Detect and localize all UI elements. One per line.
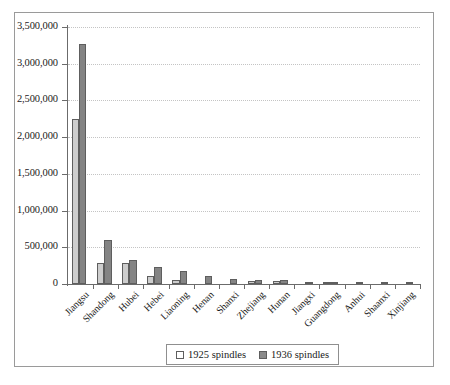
legend-entry-1925: 1925 spindles	[176, 349, 246, 360]
bar-group	[373, 27, 388, 284]
y-axis-tick-label: 3,500,000	[14, 20, 58, 31]
y-axis-line	[67, 25, 68, 286]
gridline	[68, 137, 420, 138]
bar-group	[273, 27, 288, 284]
y-axis-tick-label: 500,000	[14, 240, 58, 251]
x-axis-tick-mark	[370, 284, 371, 289]
bar-hebei-1925	[147, 276, 154, 284]
bar-group	[72, 27, 87, 284]
x-axis-tick-mark	[244, 284, 245, 289]
x-axis-tick-mark	[269, 284, 270, 289]
y-axis-tick-label: 1,500,000	[14, 167, 58, 178]
bar-group	[197, 27, 212, 284]
x-axis-tick-mark	[345, 284, 346, 289]
bar-group	[97, 27, 112, 284]
bar-group	[399, 27, 414, 284]
legend-label-1936: 1936 spindles	[271, 349, 329, 360]
legend-label-1925: 1925 spindles	[188, 349, 246, 360]
legend-swatch-1936-icon	[259, 351, 267, 359]
gridline	[68, 211, 420, 212]
gridline	[68, 27, 420, 28]
figure: 3,500,0003,000,0002,500,0002,000,0001,50…	[0, 0, 450, 385]
x-axis-tick-mark	[194, 284, 195, 289]
legend-entry-1936: 1936 spindles	[259, 349, 329, 360]
x-axis-tick-mark	[219, 284, 220, 289]
bar-group	[248, 27, 263, 284]
bar-group	[223, 27, 238, 284]
bar-henan-1936	[205, 276, 212, 284]
gridline	[68, 247, 420, 248]
plot-area	[68, 27, 420, 284]
bar-group	[122, 27, 137, 284]
bar-hubei-1936	[129, 260, 136, 284]
x-axis-tick-mark	[319, 284, 320, 289]
bar-hebei-1936	[154, 267, 161, 284]
x-axis-tick-mark	[93, 284, 94, 289]
y-axis-tick-label: 0	[14, 277, 58, 288]
x-axis-tick-mark	[118, 284, 119, 289]
gridline	[68, 100, 420, 101]
y-axis-tick-label: 2,000,000	[14, 130, 58, 141]
bar-group	[147, 27, 162, 284]
y-axis-tick-label: 2,500,000	[14, 93, 58, 104]
legend-swatch-1925-icon	[176, 351, 184, 359]
x-axis-tick-mark	[143, 284, 144, 289]
x-axis-tick-mark	[420, 284, 421, 289]
bar-jiangsu-1925	[72, 119, 79, 284]
y-axis-tick-label: 1,000,000	[14, 204, 58, 215]
bar-liaoning-1936	[180, 271, 187, 284]
x-axis-tick-mark	[169, 284, 170, 289]
chart-legend: 1925 spindles 1936 spindles	[166, 344, 339, 365]
bar-shandong-1936	[104, 240, 111, 284]
bar-group	[323, 27, 338, 284]
x-axis-tick-mark	[294, 284, 295, 289]
bar-group	[298, 27, 313, 284]
bar-hubei-1925	[122, 263, 129, 284]
bar-jiangsu-1936	[79, 44, 86, 284]
bar-group	[172, 27, 187, 284]
y-axis-tick-label: 3,000,000	[14, 57, 58, 68]
plot-background	[68, 27, 420, 284]
bar-group	[348, 27, 363, 284]
gridline	[68, 64, 420, 65]
x-axis-tick-mark	[395, 284, 396, 289]
bar-shandong-1925	[97, 263, 104, 284]
gridline	[68, 174, 420, 175]
